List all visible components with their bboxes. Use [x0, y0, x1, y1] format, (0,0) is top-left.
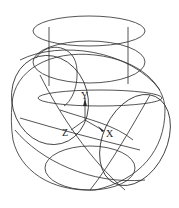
bottom-ellipse — [45, 146, 135, 190]
x-axis-arrow-icon — [98, 126, 104, 132]
sphere-body — [2, 47, 179, 197]
wireframe-diagram: Y Z X — [0, 0, 179, 208]
middle-band-ellipse — [38, 90, 162, 106]
axis-line-x-extended — [60, 110, 133, 140]
z-axis-line — [71, 120, 85, 130]
z-axis-label: Z — [62, 127, 68, 138]
y-axis-label: Y — [81, 90, 88, 101]
sweep-arc-3 — [90, 95, 150, 190]
sweep-arc-1 — [20, 118, 140, 150]
x-axis-label: X — [106, 128, 114, 139]
